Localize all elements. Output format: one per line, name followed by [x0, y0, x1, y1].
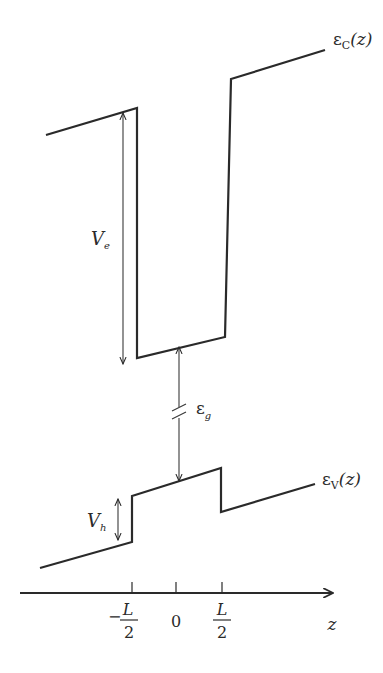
tick-label-zero: 0 — [171, 612, 181, 631]
band-diagram: εC(z) εV(z) Ve Vh εg − L 2 0 L 2 z — [0, 0, 383, 673]
tick-label-l-num: L — [216, 600, 228, 619]
band-gap-label: εg — [196, 398, 211, 421]
conduction-band-edge — [46, 50, 325, 358]
tick-label-minus-sign: − — [108, 607, 121, 626]
tick-label-minus-l-den: 2 — [124, 623, 134, 642]
tick-label-minus-l-num: L — [122, 600, 134, 619]
valence-band-label: εV(z) — [322, 469, 361, 492]
tick-label-l-den: 2 — [217, 623, 227, 642]
band-gap-break-mark — [172, 412, 186, 419]
z-axis-label: z — [327, 614, 338, 634]
valence-band-edge — [40, 468, 315, 568]
hole-offset-label: Vh — [87, 510, 106, 533]
electron-offset-label: Ve — [91, 228, 110, 251]
conduction-band-label: εC(z) — [333, 29, 372, 52]
